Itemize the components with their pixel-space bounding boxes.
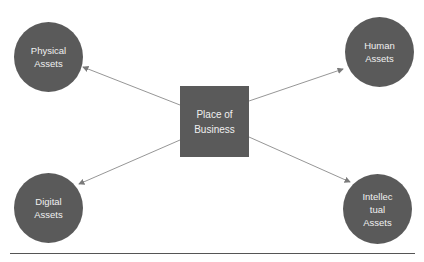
node-label-line: Human [364, 39, 395, 52]
node-physical-assets: Physical Assets [14, 22, 83, 92]
node-label-line: Assets [363, 216, 392, 229]
center-label-line: Place of [196, 107, 232, 122]
node-label-line: Assets [34, 208, 63, 221]
node-place-of-business: Place of Business [180, 86, 249, 157]
node-intellectual-assets: Intellec tual Assets [343, 174, 412, 244]
node-human-assets: Human Assets [345, 17, 414, 87]
node-label-line: Physical [31, 44, 66, 57]
center-label-line: Business [194, 122, 235, 137]
bottom-divider [10, 253, 415, 254]
arrow-to-intellectual [249, 137, 350, 182]
node-label-line: Assets [34, 57, 63, 70]
node-digital-assets: Digital Assets [14, 173, 83, 243]
node-label-line: Intellec [362, 190, 392, 203]
arrow-to-physical [83, 67, 180, 105]
node-label-line: Digital [35, 195, 61, 208]
arrow-to-human [249, 69, 343, 101]
node-label-line: Assets [365, 52, 394, 65]
node-label-line: tual [370, 203, 385, 216]
arrow-to-digital [79, 140, 180, 184]
